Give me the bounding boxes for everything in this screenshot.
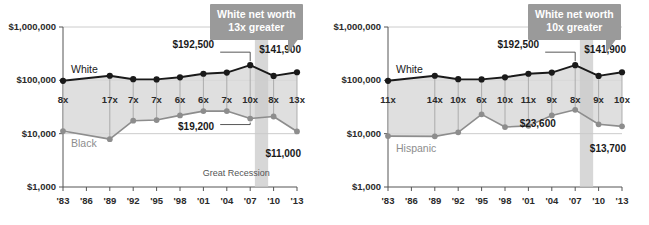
data-point bbox=[502, 74, 508, 80]
ratio-label: 9x bbox=[547, 95, 558, 105]
x-axis-tick: '83 bbox=[57, 196, 70, 206]
chart-panel-hispanic: $1,000,000$100,000$10,000$1,000'83'86'89… bbox=[325, 0, 649, 225]
data-point bbox=[479, 76, 485, 82]
data-point bbox=[294, 69, 300, 75]
x-axis-tick: '04 bbox=[545, 196, 558, 206]
ratio-label: 13x bbox=[289, 95, 305, 105]
callout-line-2: 10x greater bbox=[535, 21, 614, 34]
x-axis-tick: '10 bbox=[592, 196, 605, 206]
ratio-label: 10x bbox=[497, 95, 513, 105]
annotation-black-2007: $19,200 bbox=[0, 122, 214, 132]
y-axis-tick: $10,000 bbox=[325, 129, 381, 139]
series-label-minority: Hispanic bbox=[396, 143, 436, 154]
series-label-white: White bbox=[396, 64, 423, 75]
data-point bbox=[107, 73, 113, 79]
ratio-label: 8x bbox=[570, 95, 581, 105]
x-axis-tick: '10 bbox=[267, 196, 280, 206]
data-point bbox=[572, 62, 578, 68]
y-axis-tick: $1,000 bbox=[325, 182, 381, 192]
ratio-label: 6x bbox=[476, 95, 487, 105]
data-point bbox=[619, 69, 625, 75]
ratio-label: 17x bbox=[102, 95, 118, 105]
ratio-label: 6x bbox=[175, 95, 186, 105]
y-axis-tick: $100,000 bbox=[0, 76, 56, 86]
data-point bbox=[549, 69, 555, 75]
callout-tail bbox=[288, 38, 299, 53]
data-point bbox=[432, 133, 438, 139]
data-point bbox=[385, 78, 391, 84]
data-point bbox=[154, 76, 160, 82]
x-axis-tick: '01 bbox=[522, 196, 535, 206]
callout-box: White net worth10x greater bbox=[528, 4, 621, 40]
data-point bbox=[271, 73, 277, 79]
data-point bbox=[247, 62, 253, 68]
data-point bbox=[177, 74, 183, 80]
ratio-label: 10x bbox=[242, 95, 258, 105]
x-axis-tick: '04 bbox=[220, 196, 233, 206]
x-axis-tick: '89 bbox=[428, 196, 441, 206]
callout-line-1: White net worth bbox=[535, 8, 614, 21]
ratio-label: 10x bbox=[450, 95, 466, 105]
x-axis-tick: '86 bbox=[405, 196, 418, 206]
recession-label: Great Recession bbox=[203, 169, 270, 178]
x-axis-tick: '98 bbox=[499, 196, 512, 206]
ratio-label: 7x bbox=[128, 95, 139, 105]
x-axis-tick: '92 bbox=[452, 196, 465, 206]
data-point bbox=[60, 78, 66, 84]
data-point bbox=[455, 76, 461, 82]
ratio-label: 9x bbox=[593, 95, 604, 105]
ratio-label: 10x bbox=[614, 95, 630, 105]
annotation-white-peak: $192,500 bbox=[0, 40, 214, 50]
ratio-label: 7x bbox=[151, 95, 162, 105]
x-axis-tick: '13 bbox=[291, 196, 304, 206]
ratio-label: 11x bbox=[380, 95, 395, 105]
ratio-label: 8x bbox=[58, 95, 69, 105]
x-axis-tick: '98 bbox=[174, 196, 187, 206]
data-point bbox=[455, 129, 461, 135]
data-point bbox=[201, 108, 207, 114]
data-point bbox=[294, 129, 300, 135]
x-axis-tick: '07 bbox=[244, 196, 257, 206]
ratio-label: 7x bbox=[222, 95, 233, 105]
annotation-white-peak: $192,500 bbox=[325, 40, 539, 50]
x-axis-tick: '83 bbox=[382, 196, 395, 206]
callout-line-2: 13x greater bbox=[217, 21, 296, 34]
data-point bbox=[224, 69, 230, 75]
data-point bbox=[619, 123, 625, 129]
x-axis-tick: '01 bbox=[197, 196, 210, 206]
data-point bbox=[224, 108, 230, 114]
ratio-label: 14x bbox=[427, 95, 443, 105]
annotation-hispanic-2004: $23,600 bbox=[500, 119, 556, 129]
data-point bbox=[177, 113, 183, 119]
data-point bbox=[596, 121, 602, 127]
x-axis-tick: '86 bbox=[80, 196, 93, 206]
data-point bbox=[107, 136, 113, 142]
y-axis-tick: $100,000 bbox=[325, 76, 381, 86]
data-point bbox=[432, 73, 438, 79]
y-axis-tick: $1,000 bbox=[0, 182, 56, 192]
ratio-label: 8x bbox=[268, 95, 279, 105]
x-axis-tick: '95 bbox=[150, 196, 163, 206]
data-point bbox=[247, 116, 253, 122]
data-point bbox=[271, 114, 277, 120]
net-worth-chart-figure: $1,000,000$100,000$10,000$1,000'83'86'89… bbox=[0, 0, 649, 225]
data-point bbox=[596, 73, 602, 79]
callout-line-1: White net worth bbox=[217, 8, 296, 21]
chart-panel-black: $1,000,000$100,000$10,000$1,000'83'86'89… bbox=[0, 0, 324, 225]
data-point bbox=[130, 76, 136, 82]
annotation-black-last: $11,000 bbox=[245, 149, 301, 159]
x-axis-tick: '95 bbox=[475, 196, 488, 206]
series-label-minority: Black bbox=[71, 138, 97, 149]
ratio-label: 6x bbox=[198, 95, 209, 105]
annotation-white-last: $141,900 bbox=[570, 45, 626, 55]
y-axis-tick: $1,000,000 bbox=[325, 22, 381, 32]
series-label-white: White bbox=[71, 64, 98, 75]
data-point bbox=[525, 71, 531, 77]
x-axis-tick: '92 bbox=[127, 196, 140, 206]
annotation-hispanic-last: $13,700 bbox=[570, 144, 626, 154]
callout-tail bbox=[606, 38, 617, 53]
ratio-label: 11x bbox=[521, 95, 536, 105]
data-point bbox=[479, 111, 485, 117]
data-point bbox=[572, 107, 578, 113]
x-axis-tick: '13 bbox=[616, 196, 629, 206]
